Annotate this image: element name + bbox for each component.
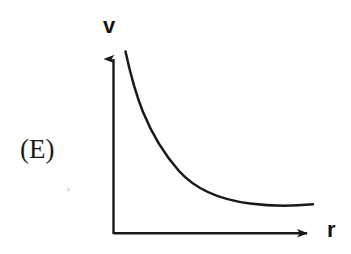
- figure-container: (E) v r: [0, 0, 351, 254]
- x-axis-label: r: [327, 219, 336, 241]
- inverse-curve: [126, 52, 314, 206]
- y-axis-label: v: [103, 15, 115, 37]
- graph-svg: [0, 0, 351, 254]
- scan-artifact-speck: [67, 188, 70, 191]
- choice-label: (E): [20, 136, 54, 163]
